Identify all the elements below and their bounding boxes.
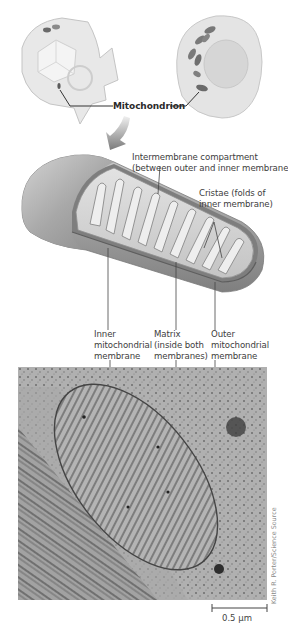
scale-bar	[212, 604, 267, 612]
mitochondrion-callout-label: Mitochondrion	[113, 101, 185, 111]
matrix-label-line1: Matrix	[154, 329, 180, 339]
intermembrane-label-line1: Intermembrane compartment	[132, 152, 258, 162]
outer-membrane-label-line3: membrane	[211, 351, 257, 361]
outer-membrane-label-line2: mitochondrial	[211, 340, 269, 350]
inner-membrane-label-line2: mitochondrial	[94, 340, 152, 350]
photo-credit: Keith R. Porter/Science Source	[270, 507, 278, 604]
intermembrane-label-line2: (between outer and inner membranes)	[132, 163, 288, 173]
cristae-label-line2: inner membrane)	[199, 199, 273, 209]
inner-membrane-label-line3: membrane	[94, 351, 140, 361]
curved-down-arrow-icon	[106, 116, 130, 150]
scale-bar-label: 0.5 µm	[222, 613, 252, 623]
cristae-label-line1: Cristae (folds of	[199, 188, 265, 198]
plant-cell-illustration	[22, 18, 118, 124]
mitochondrion-illustration	[22, 155, 264, 292]
matrix-label-line3: membranes)	[154, 351, 208, 361]
matrix-label-line2: (inside both	[154, 340, 204, 350]
inner-membrane-label-line1: Inner	[94, 329, 116, 339]
outer-membrane-label-line1: Outer	[211, 329, 235, 339]
electron-micrograph	[18, 367, 267, 600]
